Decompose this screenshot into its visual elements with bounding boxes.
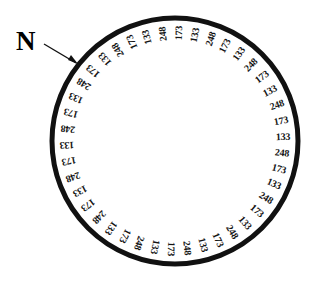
circular-dial-figure: N 24817313324817313324817313324817313324… bbox=[0, 0, 320, 289]
dial-tick-label: 133 bbox=[60, 140, 75, 151]
dial-tick-label: 133 bbox=[276, 132, 291, 143]
north-arrow-icon bbox=[44, 44, 78, 64]
dial-tick-label: 173 bbox=[174, 26, 185, 41]
dial-tick-label: 133 bbox=[149, 239, 162, 255]
dial-tick-label: 173 bbox=[62, 106, 79, 119]
ring-outline bbox=[52, 18, 298, 264]
dial-tick-label: 248 bbox=[157, 26, 169, 41]
dial-tick-label: 248 bbox=[181, 241, 193, 256]
dial-tick-label: 173 bbox=[61, 155, 77, 168]
dial-tick-label: 173 bbox=[166, 242, 177, 257]
dial-tick-label: 248 bbox=[60, 123, 75, 135]
north-label: N bbox=[16, 28, 36, 55]
dial-tick-label: 248 bbox=[275, 147, 290, 159]
